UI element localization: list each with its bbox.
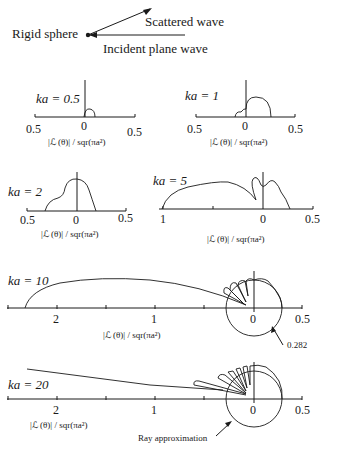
svg-text:|ℒ (θ)| / sqr(πa²): |ℒ (θ)| / sqr(πa²) xyxy=(210,137,267,147)
svg-text:0.5: 0.5 xyxy=(118,211,133,225)
panel-ka-0.5: ka = 0.5 0.5 0 0.5 |ℒ (θ)| / sqr(πa²) xyxy=(26,80,142,147)
svg-text:0.5: 0.5 xyxy=(288,122,303,136)
panel-ka-1: ka = 1 0.5 0 0.5 |ℒ (θ)| / sqr(πa²) xyxy=(185,80,303,147)
axis-label: |ℒ (θ)| / sqr(πa²) xyxy=(48,137,105,147)
svg-text:0: 0 xyxy=(250,312,256,326)
scattered-arrow xyxy=(88,9,150,35)
svg-text:2: 2 xyxy=(53,312,59,326)
svg-text:1: 1 xyxy=(151,403,157,417)
ray-approximation-label: Ray approximation xyxy=(138,433,208,443)
svg-text:ka = 5: ka = 5 xyxy=(153,173,188,188)
svg-text:0.5: 0.5 xyxy=(187,122,202,136)
geometry-diagram: Rigid sphere Scattered wave Incident pla… xyxy=(12,8,224,56)
svg-text:0: 0 xyxy=(242,119,248,133)
circle-radius-label: 0.282 xyxy=(287,340,307,350)
sphere-label: Rigid sphere xyxy=(12,26,78,41)
panel-label: ka = 0.5 xyxy=(36,91,80,106)
svg-text:0.5: 0.5 xyxy=(295,312,310,326)
svg-text:|ℒ (θ)| / sqr(πa²): |ℒ (θ)| / sqr(πa²) xyxy=(30,420,87,430)
svg-text:ka = 1: ka = 1 xyxy=(185,88,219,103)
scattering-figure: Rigid sphere Scattered wave Incident pla… xyxy=(0,0,362,457)
svg-text:0: 0 xyxy=(250,403,256,417)
svg-text:0.5: 0.5 xyxy=(127,125,142,139)
svg-text:0: 0 xyxy=(73,213,79,227)
svg-text:0: 0 xyxy=(260,212,266,226)
incident-label: Incident plane wave xyxy=(103,41,208,56)
svg-text:0.5: 0.5 xyxy=(295,403,310,417)
svg-text:2: 2 xyxy=(53,403,59,417)
svg-text:1: 1 xyxy=(160,212,166,226)
panel-ka-10: ka = 10 2 1 0 0.5 |ℒ (θ)| / sqr(πa²) 0.2… xyxy=(7,271,310,350)
svg-text:ka = 2: ka = 2 xyxy=(8,184,43,199)
svg-text:0.5: 0.5 xyxy=(305,212,320,226)
panel-ka-5: ka = 5 1 0 0.5 |ℒ (θ)| / sqr(πa²) xyxy=(153,172,320,244)
svg-text:0: 0 xyxy=(81,119,87,133)
svg-text:|ℒ (θ)| / sqr(πa²): |ℒ (θ)| / sqr(πa²) xyxy=(41,229,98,239)
svg-text:0.5: 0.5 xyxy=(26,122,41,136)
panel-ka-20: ka = 20 2 1 0 0.5 |ℒ (θ)| / sqr(πa²) Ray… xyxy=(7,362,310,443)
svg-text:ka = 20: ka = 20 xyxy=(8,377,49,392)
svg-text:0.5: 0.5 xyxy=(20,213,35,227)
svg-text:|ℒ (θ)| / sqr(πa²): |ℒ (θ)| / sqr(πa²) xyxy=(103,330,160,340)
scattered-label: Scattered wave xyxy=(145,14,224,29)
svg-text:ka = 10: ka = 10 xyxy=(8,273,49,288)
svg-text:|ℒ (θ)| / sqr(πa²): |ℒ (θ)| / sqr(πa²) xyxy=(207,234,264,244)
svg-text:1: 1 xyxy=(151,312,157,326)
panel-ka-2: ka = 2 0.5 0 0.5 |ℒ (θ)| / sqr(πa²) xyxy=(8,172,133,239)
